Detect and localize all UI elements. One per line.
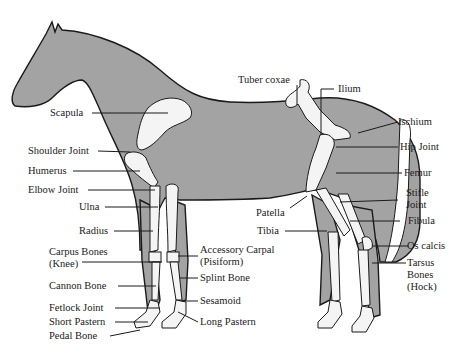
label-sesamoid: Sesamoid (200, 295, 241, 307)
label-ischium: Ischium (398, 116, 432, 128)
label-ilium: Ilium (338, 83, 361, 95)
label-pedal-bone: Pedal Bone (49, 330, 97, 342)
label-stifle-joint: Joint (406, 199, 426, 211)
carpus-bone (149, 252, 161, 262)
label-cannon-bone: Cannon Bone (49, 280, 106, 292)
label-os-calcis: Os calcis (407, 240, 445, 252)
accessory-carpal-bone (167, 252, 179, 262)
label-humerus: Humerus (28, 165, 67, 177)
label-tarsus: Tarsus (407, 257, 434, 269)
label-short-pastern: Short Pastern (49, 316, 105, 328)
label-long-pastern: Long Pastern (200, 316, 256, 328)
label-carpus-knee: (Knee) (49, 258, 78, 270)
label-ulna: Ulna (79, 201, 99, 213)
label-hock: (Hock) (407, 281, 437, 293)
far-hind-hoof (352, 306, 374, 332)
label-tarsus-bones: Bones (407, 269, 433, 281)
far-radius-bone (166, 184, 178, 252)
label-tibia: Tibia (257, 225, 279, 237)
label-femur: Femur (404, 167, 431, 179)
label-fibula: Fibula (408, 215, 435, 227)
label-scapula: Scapula (50, 107, 83, 119)
cannon-bone (152, 262, 160, 300)
label-stifle: Stifle (406, 187, 429, 199)
label-patella: Patella (256, 207, 285, 219)
far-hind-cannon (358, 250, 370, 306)
label-accessory-carpal: Accessory Carpal (200, 244, 274, 256)
radius-bone (150, 186, 160, 252)
label-hip-joint: Hip Joint (400, 141, 439, 153)
label-fetlock-joint: Fetlock Joint (49, 302, 104, 314)
label-shoulder-joint: Shoulder Joint (28, 145, 89, 157)
label-splint-bone: Splint Bone (200, 272, 250, 284)
label-tuber-coxae: Tuber coxae (238, 74, 290, 86)
label-elbow-joint: Elbow Joint (28, 184, 78, 196)
label-radius: Radius (79, 225, 108, 237)
label-carpus-bones: Carpus Bones (49, 246, 108, 258)
label-pisiform: (Pisiform) (200, 256, 243, 268)
